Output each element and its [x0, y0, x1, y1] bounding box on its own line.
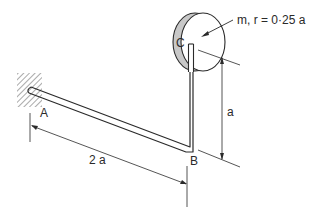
dimension-2a: [30, 113, 187, 207]
label-disk-spec: m, r = 0·25 a: [237, 13, 306, 27]
label-point-c: C: [176, 36, 185, 50]
label-dim-vertical: a: [227, 105, 234, 119]
rod-disk-diagram: A B C m, r = 0·25 a 2 a a: [0, 0, 324, 214]
label-point-b: B: [190, 154, 198, 168]
label-dim-horizontal: 2 a: [89, 153, 106, 167]
rod: [28, 46, 193, 152]
label-point-a: A: [40, 106, 48, 120]
